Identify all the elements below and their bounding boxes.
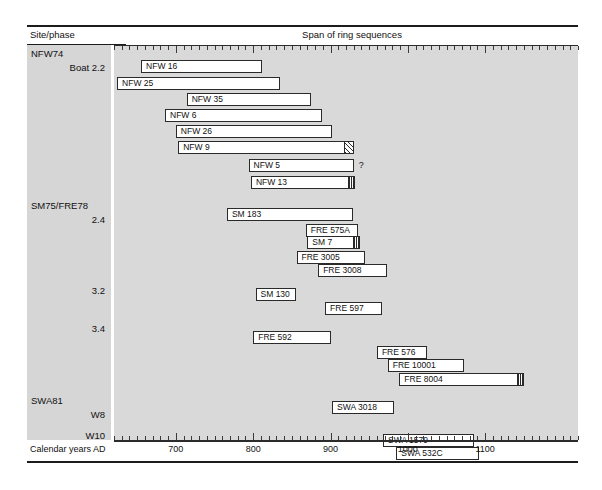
ring-sequence-bar: NFW 26	[176, 125, 332, 138]
axis-minor-tick	[160, 436, 161, 440]
plot-minor-tick	[137, 46, 138, 50]
ring-sequence-bar: FRE 10001	[388, 359, 465, 372]
axis-minor-tick	[431, 436, 432, 440]
axis-minor-tick	[570, 436, 571, 440]
axis-minor-tick	[547, 436, 548, 440]
plot-minor-tick	[184, 46, 185, 50]
ring-sequence-bar: NFW 6	[165, 109, 322, 122]
plot-minor-tick	[199, 46, 200, 50]
axis-minor-tick	[501, 436, 502, 440]
axis-minor-tick	[199, 436, 200, 440]
axis-minor-tick	[563, 436, 564, 440]
ring-sequence-bar: SM 130	[256, 288, 296, 301]
axis-minor-tick	[323, 436, 324, 440]
axis-minor-tick	[447, 436, 448, 440]
axis-minor-tick	[454, 436, 455, 440]
site-phase-header-label: Site/phase	[30, 29, 75, 40]
axis-minor-tick	[462, 436, 463, 440]
axis-minor-tick	[385, 436, 386, 440]
axis-major-tick	[408, 433, 409, 440]
ring-sequence-bar: NFW 13	[251, 176, 355, 189]
axis-major-tick	[176, 433, 177, 440]
plot-minor-tick	[532, 46, 533, 50]
axis-minor-tick	[555, 436, 556, 440]
ring-sequence-bar: SWA 3018	[332, 401, 394, 414]
ring-sequence-bar-label: NFW 9	[183, 142, 209, 153]
ring-sequence-bar: FRE 576	[377, 346, 427, 359]
axis-minor-tick	[354, 436, 355, 440]
plot-minor-tick	[501, 46, 502, 50]
axis-minor-tick	[245, 436, 246, 440]
ring-sequence-bar-label: FRE 10001	[393, 360, 436, 371]
plot-minor-tick	[369, 46, 370, 50]
axis-minor-tick	[578, 436, 579, 440]
plot-minor-tick	[354, 46, 355, 50]
plot-minor-tick	[400, 46, 401, 50]
plot-minor-tick	[439, 46, 440, 50]
axis-minor-tick	[307, 436, 308, 440]
axis-minor-tick	[508, 436, 509, 440]
ring-sequence-bar-label: NFW 5	[254, 160, 280, 171]
axis-minor-tick	[137, 436, 138, 440]
plot-minor-tick	[300, 46, 301, 50]
ring-sequence-bar: FRE 592	[253, 331, 331, 344]
axis-minor-tick	[377, 436, 378, 440]
ring-sequence-bar-label: FRE 576	[382, 347, 416, 358]
ring-sequence-bar: SM 7	[307, 236, 360, 249]
plot-minor-tick	[122, 46, 123, 50]
plot-minor-tick	[160, 46, 161, 50]
ring-sequence-plot-area: NFW 16NFW 25NFW 35NFW 6NFW 26NFW 9NFW 5?…	[114, 45, 578, 440]
plot-minor-tick	[477, 46, 478, 50]
ring-sequence-bar: FRE 3008	[318, 264, 387, 277]
phase-label: 3.2	[92, 285, 105, 296]
ring-sequence-bar-label: FRE 8004	[404, 374, 442, 385]
ring-sequence-bar: NFW 35	[187, 93, 312, 106]
plot-minor-tick	[307, 46, 308, 50]
axis-minor-tick	[184, 436, 185, 440]
plot-major-tick	[176, 46, 177, 53]
plot-minor-tick	[454, 46, 455, 50]
phase-label: 3.4	[92, 323, 105, 334]
plot-minor-tick	[508, 46, 509, 50]
plot-minor-tick	[215, 46, 216, 50]
axis-minor-tick	[369, 436, 370, 440]
axis-minor-tick	[114, 436, 115, 440]
plot-minor-tick	[284, 46, 285, 50]
axis-minor-tick	[392, 436, 393, 440]
phase-label: 2.4	[92, 214, 105, 225]
ring-sequence-bar-label: NFW 35	[192, 94, 223, 105]
plot-minor-tick	[447, 46, 448, 50]
axis-tick-label: 1100	[476, 444, 495, 454]
ring-sequence-bar: NFW 16	[141, 60, 262, 73]
plot-minor-tick	[578, 46, 579, 50]
ring-sequence-bar: SM 183	[227, 208, 353, 221]
plot-minor-tick	[423, 46, 424, 50]
plot-minor-tick	[238, 46, 239, 50]
axis-minor-tick	[470, 436, 471, 440]
plot-major-tick	[485, 46, 486, 53]
axis-tick-label: 900	[323, 444, 338, 454]
plot-minor-tick	[292, 46, 293, 50]
plot-minor-tick	[570, 46, 571, 50]
axis-minor-tick	[439, 436, 440, 440]
plot-minor-tick	[547, 46, 548, 50]
plot-minor-tick	[245, 46, 246, 50]
axis-minor-tick	[300, 436, 301, 440]
ring-sequence-bar: FRE 597	[325, 302, 382, 315]
axis-major-tick	[331, 433, 332, 440]
plot-major-tick	[408, 46, 409, 53]
axis-minor-tick	[361, 436, 362, 440]
sapwood-hatch-marker	[348, 177, 354, 188]
phase-label: W8	[91, 409, 105, 420]
ring-sequence-bar-label: FRE 597	[330, 303, 364, 314]
axis-minor-tick	[215, 436, 216, 440]
plot-major-tick	[253, 46, 254, 53]
axis-minor-tick	[222, 436, 223, 440]
ring-sequence-bar: NFW 5	[249, 159, 354, 172]
ring-sequence-bar-label: SM 130	[261, 289, 290, 300]
plot-minor-tick	[276, 46, 277, 50]
plot-minor-tick	[385, 46, 386, 50]
sapwood-hatch-marker	[353, 237, 359, 248]
site-label: SWA81	[31, 395, 63, 406]
plot-minor-tick	[323, 46, 324, 50]
